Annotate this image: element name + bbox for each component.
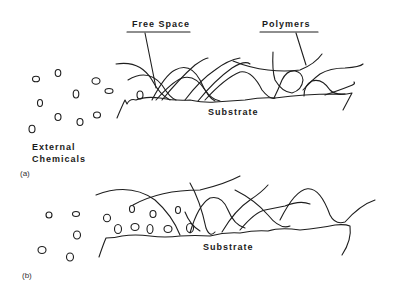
panel-b-label: (b) [22, 271, 32, 280]
adsorbed-chemicals-b [115, 206, 194, 234]
adsorbed-chemical [137, 91, 143, 99]
polymer-chain [240, 202, 310, 230]
polymer-chain [185, 212, 200, 231]
substrate-label-b: Substrate [203, 242, 254, 252]
polymer-chain [303, 64, 363, 90]
polymer-chain [133, 176, 240, 205]
polymers-label: Polymers [262, 19, 311, 29]
polymer-chain [152, 68, 215, 101]
panel-a-label: (a) [20, 169, 30, 178]
polymer-chain [162, 58, 208, 100]
polymer-chain [280, 189, 375, 223]
external-chemicals-label-line1: External [32, 142, 76, 152]
substrate-label-a: Substrate [208, 107, 259, 117]
external-chemicals-label-line2: Chemicals [32, 154, 86, 164]
polymer-chain [235, 190, 290, 227]
polymers-pointer [296, 33, 306, 65]
polymer-substrate-diagram: Free Space Polymers Substrate External C… [0, 0, 393, 297]
substrate-b [99, 225, 350, 257]
external-chemicals-a [29, 70, 113, 133]
free-space-pointer [145, 33, 156, 88]
polymer-chain [205, 72, 275, 100]
polymer-chain [190, 198, 245, 234]
polymer-chain [273, 52, 303, 98]
panel-a-drawing [29, 32, 363, 133]
free-space-label: Free Space [132, 19, 190, 29]
polymer-chain [96, 190, 180, 235]
